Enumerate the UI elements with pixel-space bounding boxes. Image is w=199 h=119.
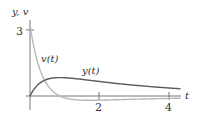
t-axis-label: t <box>185 90 190 101</box>
y-axis-label: y, v <box>11 6 29 17</box>
y-curve <box>30 78 181 96</box>
tick-label-4: 4 <box>165 101 172 114</box>
tick-label-3: 3 <box>16 25 23 38</box>
y-curve-label: y(t) <box>81 65 100 76</box>
tick-label-2: 2 <box>95 101 102 114</box>
v-curve-label: v(t) <box>41 53 59 64</box>
chart: y, v t 3 2 4 v(t) y(t) <box>0 0 199 119</box>
